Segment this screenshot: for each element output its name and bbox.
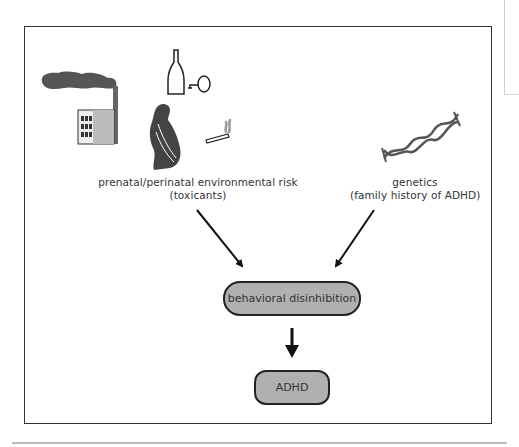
behavioral-disinhibition-label: behavioral disinhibition: [228, 292, 357, 305]
adhd-node: ADHD: [254, 370, 330, 405]
adhd-label: ADHD: [276, 381, 309, 394]
behavioral-disinhibition-node: behavioral disinhibition: [223, 281, 361, 316]
